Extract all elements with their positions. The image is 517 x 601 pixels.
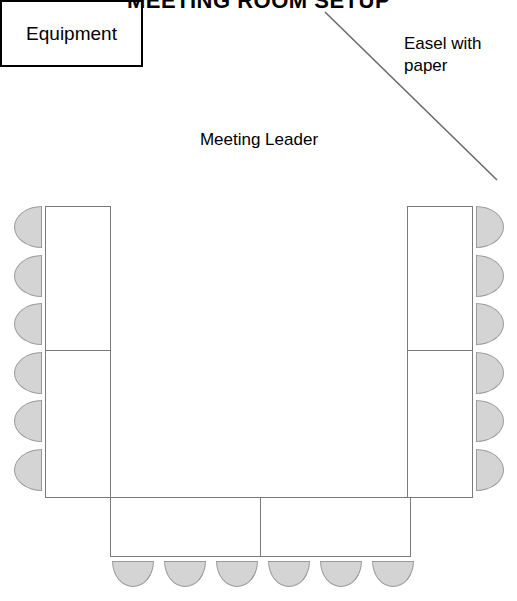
chair-left-2	[14, 255, 42, 297]
chair-left-1	[14, 206, 42, 248]
chair-left-5	[14, 400, 42, 442]
chair-right-2	[476, 255, 504, 297]
meeting-leader-label: Meeting Leader	[188, 129, 330, 151]
page-title: MEETING ROOM SETUP	[0, 0, 517, 14]
chair-right-3	[476, 303, 504, 345]
chair-right-5	[476, 400, 504, 442]
chair-bottom-2	[164, 561, 206, 587]
chair-bottom-4	[268, 561, 310, 587]
bottom-table-left-segment	[110, 497, 261, 557]
chair-bottom-1	[112, 561, 154, 587]
bottom-table-right-segment	[260, 497, 411, 557]
right-table-upper-segment	[407, 206, 473, 351]
chair-right-6	[476, 449, 504, 491]
chair-left-6	[14, 449, 42, 491]
equipment-label: Equipment	[26, 23, 117, 45]
left-table-lower-segment	[45, 350, 111, 498]
chair-bottom-3	[216, 561, 258, 587]
easel-label: Easel with paper	[404, 33, 514, 77]
chair-left-3	[14, 303, 42, 345]
left-table-upper-segment	[45, 206, 111, 351]
chair-bottom-5	[320, 561, 362, 587]
chair-bottom-6	[372, 561, 414, 587]
meeting-room-diagram: MEETING ROOM SETUP Easel with paper Meet…	[0, 0, 517, 601]
chair-left-4	[14, 352, 42, 394]
chair-right-1	[476, 206, 504, 248]
right-table-lower-segment	[407, 350, 473, 498]
chair-right-4	[476, 352, 504, 394]
easel-line-icon	[318, 4, 504, 188]
